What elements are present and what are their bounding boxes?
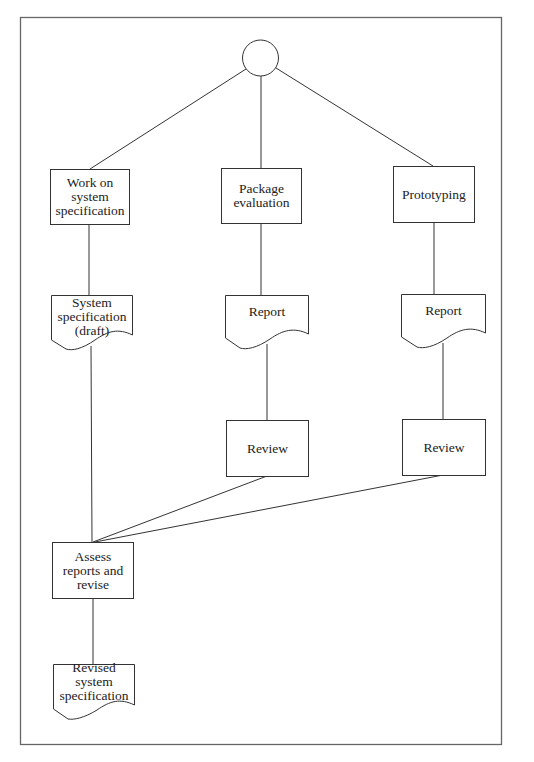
start-node-circle (243, 40, 279, 76)
edge-draft-assess (91, 346, 92, 542)
connectors (89, 68, 443, 664)
edge-start-proto (276, 68, 433, 166)
node-label-review2: Review (402, 419, 486, 476)
node-label-draft: System specification (draft) (51, 297, 133, 337)
edge-review2-assess (95, 475, 443, 542)
node-label-proto: Prototyping (393, 166, 475, 223)
node-label-work: Work on system specification (50, 169, 130, 225)
node-label-package: Package evaluation (221, 168, 302, 224)
node-label-report1: Report (225, 297, 309, 327)
node-label-report2: Report (401, 296, 486, 326)
node-label-review1: Review (226, 420, 309, 477)
edge-start-work (90, 69, 246, 169)
node-label-revised: Revised system specification (53, 666, 135, 698)
node-label-assess: Assess reports and revise (52, 542, 134, 599)
diagram-canvas (0, 0, 534, 762)
edge-review1-assess (93, 476, 267, 542)
